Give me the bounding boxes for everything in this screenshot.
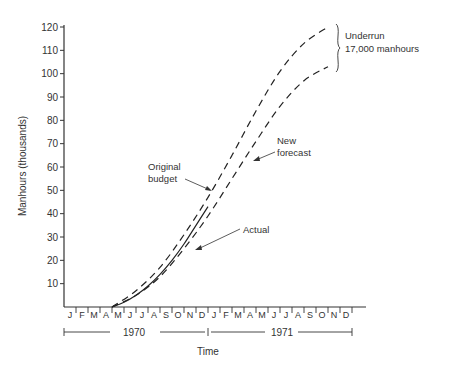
arrowhead-original-icon: [205, 186, 212, 191]
series-original-budget: [112, 27, 328, 307]
arrowhead-actual-icon: [195, 245, 202, 250]
x-tick-label: S: [307, 310, 313, 320]
x-tick-label: J: [272, 310, 277, 320]
x-tick-label: O: [174, 310, 181, 320]
x-tick-label: J: [212, 310, 217, 320]
label-forecast-line1: New: [277, 135, 296, 146]
x-tick-label: M: [114, 310, 122, 320]
arrowhead-forecast-icon: [253, 156, 260, 161]
x-tick-label: N: [187, 310, 194, 320]
manhours-chart: 102030405060708090100110120 JFMAMJJASOND…: [0, 0, 451, 369]
x-tick-label: A: [103, 310, 109, 320]
y-axis-label: Manhours (thousands): [17, 116, 28, 216]
x-axis-label: Time: [197, 346, 219, 357]
label-original-line2: budget: [148, 173, 177, 184]
y-tick-label: 10: [47, 278, 59, 289]
series: [112, 27, 328, 307]
x-tick-label: J: [284, 310, 289, 320]
x-tick-label: S: [163, 310, 169, 320]
year-label-1971: 1971: [271, 327, 294, 338]
y-tick-label: 40: [47, 208, 59, 219]
arrow-actual: [198, 229, 240, 249]
label-original-line1: Original: [148, 161, 181, 172]
y-tick-label: 20: [47, 255, 59, 266]
x-tick-label: O: [318, 310, 325, 320]
year-label-1970: 1970: [123, 327, 146, 338]
x-tick-label: A: [151, 310, 157, 320]
label-underrun-line1: Underrun: [345, 30, 385, 41]
y-tick-label: 120: [41, 22, 58, 33]
label-forecast-line2: forecast: [277, 147, 311, 158]
x-tick-label: J: [140, 310, 145, 320]
x-tick-label: J: [128, 310, 133, 320]
y-tick-label: 50: [47, 185, 59, 196]
y-tick-label: 90: [47, 92, 59, 103]
x-tick-label: F: [223, 310, 229, 320]
label-actual: Actual: [243, 224, 269, 235]
y-tick-label: 110: [42, 45, 58, 56]
x-tick-label: D: [199, 310, 206, 320]
y-tick-label: 60: [47, 162, 59, 173]
series-new-forecast: [112, 67, 328, 307]
y-ticks: 102030405060708090100110120: [41, 22, 64, 290]
axes: [64, 25, 366, 307]
x-tick-label: D: [343, 310, 350, 320]
y-tick-label: 80: [47, 115, 59, 126]
x-tick-label: M: [90, 310, 98, 320]
y-tick-label: 30: [47, 232, 59, 243]
x-tick-label: A: [247, 310, 253, 320]
underrun-brace: [336, 24, 340, 72]
x-ticks: JFMAMJJASONDJFMAMJJASOND: [68, 307, 352, 320]
y-tick-label: 70: [47, 138, 59, 149]
x-tick-label: N: [331, 310, 338, 320]
x-tick-label: F: [79, 310, 85, 320]
x-tick-label: A: [295, 310, 301, 320]
x-tick-label: J: [68, 310, 73, 320]
x-tick-label: M: [234, 310, 242, 320]
label-underrun-line2: 17,000 manhours: [345, 43, 419, 54]
series-actual: [112, 207, 208, 307]
x-tick-label: M: [258, 310, 266, 320]
y-tick-label: 100: [41, 68, 58, 79]
